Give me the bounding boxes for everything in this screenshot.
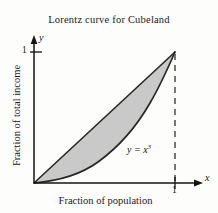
x-tick-label-1: 1 (172, 185, 177, 195)
curve-equation-annotation: y = x3 (127, 144, 151, 155)
lorentz-curve-figure: Lorentz curve for Cubeland y x 1 1 Fract… (0, 0, 218, 213)
y-axis-label: Fraction of total income (11, 46, 22, 186)
y-tick-label-1: 1 (22, 45, 27, 55)
curve-equation-exponent: 3 (148, 143, 151, 150)
x-axis-symbol: x (205, 172, 209, 183)
curve-equation-base: y = x (127, 144, 148, 155)
equality-line (34, 52, 175, 183)
y-axis-arrowhead (31, 35, 38, 44)
y-axis-symbol: y (39, 32, 43, 43)
plot-area (0, 0, 218, 213)
x-axis-arrowhead (194, 180, 203, 187)
x-axis-label: Fraction of population (18, 195, 193, 206)
